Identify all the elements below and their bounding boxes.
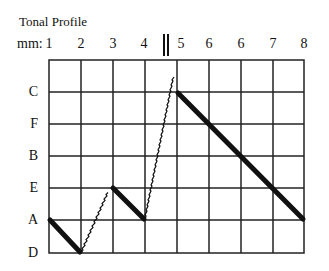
tonal-grid [0, 0, 329, 271]
wavy-transition-segments [81, 77, 174, 253]
grid-lines [49, 60, 304, 253]
